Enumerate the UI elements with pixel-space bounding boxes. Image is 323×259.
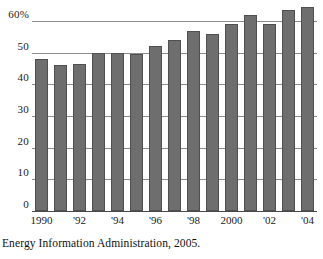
x-axis: 1990'92'94'96'982000'02'04 xyxy=(32,214,317,232)
y-tick-label-40: 40 xyxy=(18,72,29,83)
bar-2000 xyxy=(225,24,238,211)
bar-2002 xyxy=(263,24,276,211)
y-tick-label-30: 30 xyxy=(18,104,29,115)
bar-1997 xyxy=(168,40,181,211)
axis-baseline xyxy=(32,211,317,212)
bar-1993 xyxy=(92,53,105,211)
bar-2003 xyxy=(282,10,295,211)
source-caption: Energy Information Administration, 2005. xyxy=(2,236,200,250)
x-tick-label-1998: '98 xyxy=(174,214,214,227)
bar-2004 xyxy=(301,7,314,211)
x-tick-label-1990: 1990 xyxy=(22,214,62,227)
x-tick-label-2004: '04 xyxy=(288,214,323,227)
bar-2001 xyxy=(244,15,257,211)
bar-1991 xyxy=(54,65,67,211)
bar-1990 xyxy=(35,59,48,211)
y-tick-label-0: 0 xyxy=(23,199,29,210)
x-tick-label-1996: '96 xyxy=(136,214,176,227)
bar-1995 xyxy=(130,54,143,211)
y-axis: 0102030405060% xyxy=(0,0,29,212)
x-tick-label-2002: '02 xyxy=(250,214,290,227)
x-tick-label-1992: '92 xyxy=(60,214,100,227)
y-tick-label-50: 50 xyxy=(18,41,29,52)
bar-1992 xyxy=(73,64,86,211)
x-tick-label-1994: '94 xyxy=(98,214,138,227)
bar-1998 xyxy=(187,31,200,212)
y-tick-label-60: 60% xyxy=(8,9,29,20)
y-tick-label-10: 10 xyxy=(18,167,29,178)
bar-1999 xyxy=(206,34,219,211)
bar-1994 xyxy=(111,53,124,211)
bars-layer xyxy=(32,0,317,211)
y-tick-label-20: 20 xyxy=(18,136,29,147)
x-tick-label-2000: 2000 xyxy=(212,214,252,227)
bar-chart-figure: 0102030405060% 1990'92'94'96'982000'02'0… xyxy=(0,0,323,259)
bar-1996 xyxy=(149,46,162,211)
